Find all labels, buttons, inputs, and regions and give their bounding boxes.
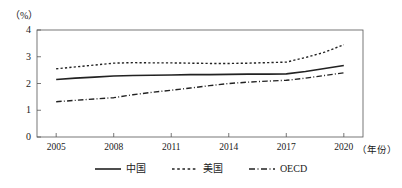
legend-label-china: 中国 bbox=[126, 164, 146, 174]
chart-legend: 中国 美国 OECD bbox=[0, 164, 402, 174]
x-tick-label: 2008 bbox=[94, 142, 134, 152]
x-tick-label: 2017 bbox=[266, 142, 306, 152]
x-tick-label: 2020 bbox=[324, 142, 364, 152]
series-line-china bbox=[56, 66, 344, 80]
y-tick-label: 4 bbox=[11, 24, 31, 35]
legend-swatch-dotted-icon bbox=[172, 165, 198, 173]
plot-area-frame bbox=[37, 30, 363, 137]
y-tick-label: 2 bbox=[11, 78, 31, 89]
x-tick-label: 2005 bbox=[36, 142, 76, 152]
x-tick-label: 2014 bbox=[209, 142, 249, 152]
data-series-group bbox=[56, 45, 344, 102]
y-tick-label: 1 bbox=[11, 104, 31, 115]
x-tick-label: 2011 bbox=[151, 142, 191, 152]
legend-item-us[interactable]: 美国 bbox=[172, 164, 223, 174]
legend-item-china[interactable]: 中国 bbox=[95, 164, 146, 174]
legend-label-oecd: OECD bbox=[280, 164, 307, 174]
y-tick-label: 0 bbox=[11, 131, 31, 142]
axis-ticks bbox=[37, 30, 344, 137]
chart-figure: （%） （年份） 中国 美国 OECD 01234200520082011201… bbox=[0, 0, 402, 188]
legend-label-us: 美国 bbox=[203, 164, 223, 174]
legend-swatch-dashdot-icon bbox=[249, 165, 275, 173]
series-line-us bbox=[56, 45, 344, 69]
legend-item-oecd[interactable]: OECD bbox=[249, 164, 307, 174]
y-tick-label: 3 bbox=[11, 51, 31, 62]
legend-swatch-solid-icon bbox=[95, 165, 121, 173]
line-chart-plot bbox=[0, 0, 402, 188]
